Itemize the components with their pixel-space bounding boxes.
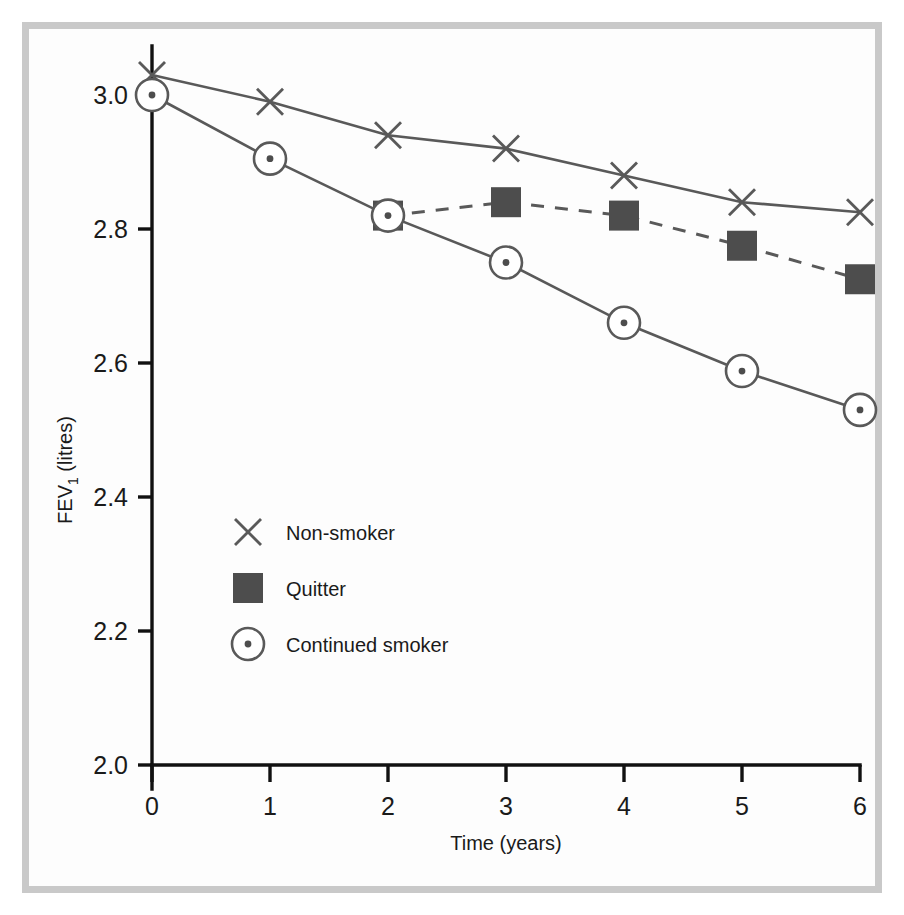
x-axis-tick-label: 3 [499, 792, 513, 820]
legend-item-non-smoker: Non-smoker [235, 519, 395, 545]
x-axis-tick-label: 2 [381, 792, 395, 820]
x-marker [257, 89, 283, 115]
circle-dot-marker [490, 247, 522, 279]
axes-group: 2.02.22.42.62.83.00123456 [93, 46, 867, 820]
circle-dot-marker [232, 628, 264, 660]
square-marker [233, 573, 263, 603]
legend-item-quitter: Quitter [233, 573, 346, 603]
circle-dot-marker [844, 394, 876, 426]
x-axis-tick-label: 1 [263, 792, 277, 820]
square-marker [727, 231, 757, 261]
circle-dot-marker [136, 79, 168, 111]
series-markers [136, 79, 876, 426]
circle-dot-marker [254, 143, 286, 175]
circle-dot-marker [726, 355, 758, 387]
y-axis-tick-label: 2.8 [93, 215, 128, 243]
x-marker [235, 519, 261, 545]
square-marker [609, 201, 639, 231]
y-axis-tick-label: 2.2 [93, 617, 128, 645]
lung-function-line-chart: 2.02.22.42.62.83.00123456 Non-smokerQuit… [0, 0, 904, 915]
y-axis-tick-label: 3.0 [93, 81, 128, 109]
legend-item-label: Quitter [286, 578, 346, 600]
x-axis-tick-label: 0 [145, 792, 159, 820]
y-axis-tick-label: 2.6 [93, 349, 128, 377]
x-axis-tick-label: 4 [617, 792, 631, 820]
legend-item-label: Non-smoker [286, 522, 395, 544]
y-axis-tick-label: 2.0 [93, 751, 128, 779]
x-axis-tick-label: 6 [853, 792, 867, 820]
x-marker [611, 162, 637, 188]
circle-dot-marker [372, 200, 404, 232]
legend-item-label: Continued smoker [286, 634, 449, 656]
legend-group: Non-smokerQuitterContinued smoker [232, 519, 449, 660]
square-marker [491, 187, 521, 217]
chart-page: 2.02.22.42.62.83.00123456 Non-smokerQuit… [0, 0, 904, 915]
square-marker [845, 264, 875, 294]
x-axis-tick-label: 5 [735, 792, 749, 820]
series-group [136, 62, 876, 426]
x-axis-title: Time (years) [450, 832, 561, 854]
y-axis-title: FEV1 (litres) [54, 416, 81, 524]
series-continued-smoker [136, 79, 876, 426]
y-axis-tick-label: 2.4 [93, 483, 128, 511]
circle-dot-marker [608, 307, 640, 339]
legend-item-continued-smoker: Continued smoker [232, 628, 449, 660]
